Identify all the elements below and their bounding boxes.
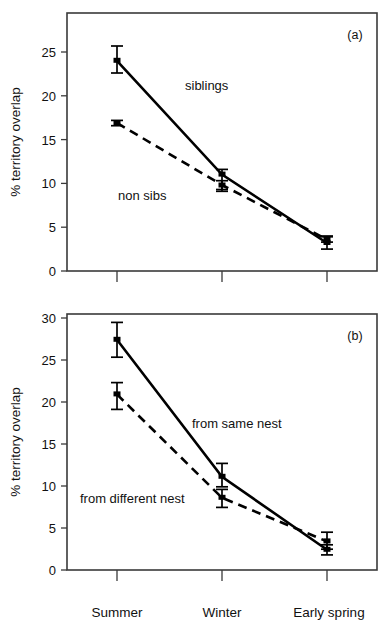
panel-a: 0 5 10 15 20 25 % territory overlap (a) [8,13,377,282]
panel-b-ytick-0: 0 [49,563,56,578]
panel-b-series-label-different-nest: from different nest [80,491,185,506]
panel-b-y-axis-title: % territory overlap [8,387,23,497]
panel-a-ytick-0: 0 [49,264,56,279]
panel-a-y-ticks [61,52,67,271]
panel-b-markers [114,337,331,552]
panel-a-ytick-15: 15 [42,133,56,148]
panel-b-errorbars-same-nest [111,322,333,555]
x-label-summer: Summer [91,605,143,620]
panel-a-frame [67,13,377,271]
panel-b-ytick-10: 10 [42,479,56,494]
panel-a-series-label-siblings: siblings [185,78,229,93]
panel-a-ytick-25: 25 [42,45,56,60]
panel-b: 0 5 10 15 20 25 30 % territory overlap (… [8,311,377,581]
panel-a-label: (a) [347,28,362,42]
figure-svg: 0 5 10 15 20 25 % territory overlap (a) [0,0,391,633]
panel-b-ytick-5: 5 [49,521,56,536]
panel-a-series-label-non-sibs: non sibs [118,188,167,203]
panel-b-ytick-15: 15 [42,437,56,452]
x-axis-category-labels: Summer Winter Early spring [91,605,364,620]
panel-a-ytick-5: 5 [49,220,56,235]
panel-b-ytick-30: 30 [42,311,56,326]
panel-b-ytick-20: 20 [42,395,56,410]
panel-b-series-label-same-nest: from same nest [192,416,282,431]
x-label-early-spring: Early spring [293,605,364,620]
panel-b-ytick-25: 25 [42,353,56,368]
panel-a-ytick-10: 10 [42,176,56,191]
x-label-winter: Winter [202,605,242,620]
panel-b-y-ticks [61,318,67,570]
panel-a-y-axis-title: % territory overlap [8,87,23,197]
panel-b-label: (b) [347,329,362,343]
panel-a-ytick-20: 20 [42,89,56,104]
panel-b-series-same-nest-line [117,340,327,550]
figure-container: 0 5 10 15 20 25 % territory overlap (a) [0,0,391,633]
panel-a-x-ticks [117,271,327,282]
panel-b-x-ticks [117,570,327,581]
panel-a-errorbars-siblings [111,46,333,249]
